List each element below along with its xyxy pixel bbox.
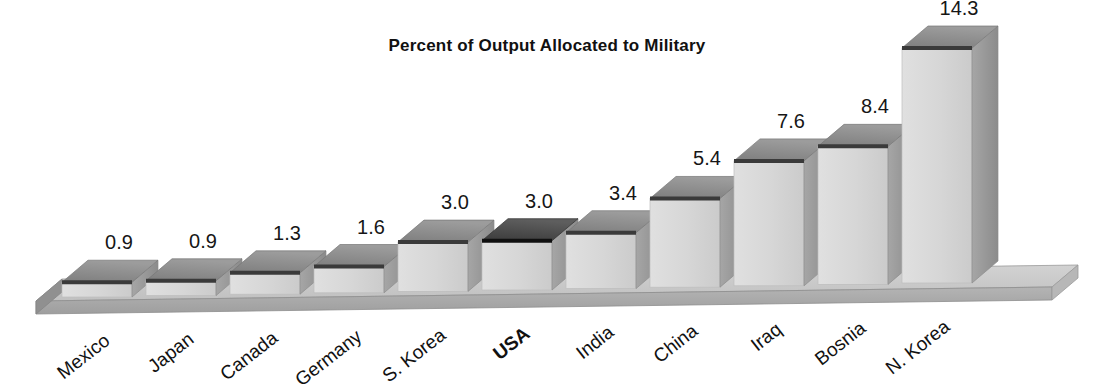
bar-category-label: Japan <box>144 328 198 376</box>
bar-front-face <box>566 233 636 289</box>
bar-front-face <box>146 281 216 296</box>
bar-category-label: USA <box>489 322 534 363</box>
bar-n-korea[interactable] <box>902 26 998 283</box>
bar-front-face <box>650 198 720 287</box>
bar-china[interactable] <box>650 176 746 287</box>
bar-value-label: 0.9 <box>189 230 217 252</box>
bar-front-face <box>818 146 888 284</box>
bar-value-label: 3.4 <box>609 182 637 204</box>
bar-category-label: China <box>649 320 701 367</box>
bar-category-label: Mexico <box>53 330 113 384</box>
category-labels-group: MexicoJapanCanadaGermanyS. KoreaUSAIndia… <box>53 315 954 390</box>
bars-group <box>62 26 998 297</box>
bar-value-label: 3.0 <box>525 190 553 212</box>
bar-category-label: India <box>572 321 618 363</box>
bar-category-label: S. Korea <box>378 324 450 386</box>
bar-value-label: 0.9 <box>105 231 133 253</box>
bar-s-korea[interactable] <box>398 220 494 291</box>
bar-category-label: Iraq <box>747 318 786 355</box>
chart-plot-area: 0.90.91.31.63.03.03.45.47.68.414.3 Mexic… <box>0 0 1094 391</box>
bar-front-face <box>734 161 804 286</box>
bar-value-label: 8.4 <box>861 95 889 117</box>
bar-category-label: N. Korea <box>881 315 953 378</box>
bar-front-face <box>902 48 972 283</box>
bar-value-label: 5.4 <box>693 147 721 169</box>
bar-value-label: 14.3 <box>940 0 979 19</box>
bar-value-label: 3.0 <box>441 191 469 213</box>
bar-chart-figure: Percent of Output Allocated to Military <box>0 0 1094 391</box>
bar-front-face <box>314 267 384 293</box>
bar-usa[interactable] <box>482 219 578 290</box>
bar-value-label: 1.6 <box>357 216 385 238</box>
bar-category-label: Bosnia <box>811 317 870 370</box>
bar-side-face <box>972 26 998 283</box>
bar-front-face <box>230 273 300 294</box>
bar-iraq[interactable] <box>734 139 830 286</box>
bar-india[interactable] <box>566 211 662 289</box>
bar-front-face <box>62 282 132 297</box>
bar-category-label: Germany <box>291 325 366 390</box>
bar-category-label: Canada <box>216 327 282 385</box>
bar-value-label: 7.6 <box>777 110 805 132</box>
bar-front-face <box>482 241 552 290</box>
bar-bosnia[interactable] <box>818 124 914 284</box>
bar-front-face <box>398 242 468 291</box>
bar-value-label: 1.3 <box>273 222 301 244</box>
